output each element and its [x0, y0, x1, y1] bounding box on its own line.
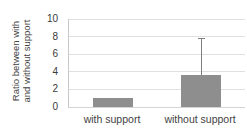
y-tick-0: 0: [52, 100, 58, 114]
x-label-without-support: without support: [156, 112, 244, 126]
y-tick-2: 2: [52, 82, 58, 96]
x-label-with-support: with support: [68, 112, 156, 126]
y-axis-tick-labels: 10 8 6 4 2 0: [36, 12, 58, 114]
bar-without-support: [181, 75, 221, 107]
error-bar-cap: [198, 38, 205, 39]
y-axis-title: Ratio between with and without support: [10, 1, 32, 121]
x-axis-tick-labels: with support without support: [68, 112, 244, 126]
y-tick-4: 4: [52, 65, 58, 79]
gridline-4: [69, 71, 245, 72]
y-axis-title-line-1: Ratio between with: [10, 1, 21, 121]
y-tick-10: 10: [47, 12, 58, 26]
error-bar-line: [201, 38, 202, 75]
plot-area: [68, 19, 245, 108]
y-tick-6: 6: [52, 47, 58, 61]
gridline-6: [69, 54, 245, 55]
bar-with-support: [93, 98, 133, 107]
bar-chart: Ratio between with and without support 1…: [0, 0, 247, 133]
y-axis-title-line-2: and without support: [21, 1, 32, 121]
gridline-8: [69, 36, 245, 37]
y-tick-8: 8: [52, 30, 58, 44]
gridline-10: [69, 19, 245, 20]
